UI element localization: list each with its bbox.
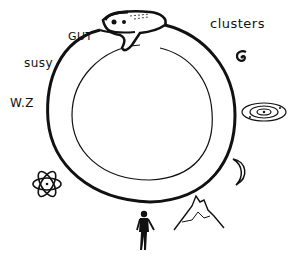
- label-susy: susy: [24, 56, 53, 70]
- label-clusters: clusters: [210, 16, 265, 31]
- moon-icon: [230, 157, 252, 187]
- spiral-galaxy-icon: [233, 48, 251, 66]
- atom-icon: [31, 168, 63, 200]
- uroboros-diagram: GUT susy W.Z clusters: [0, 0, 293, 259]
- label-gut: GUT: [68, 30, 93, 43]
- label-wz: W.Z: [10, 96, 34, 110]
- serpent-head-icon: [103, 11, 166, 50]
- human-figure-icon: [134, 210, 156, 254]
- mountain-icon: [172, 192, 228, 234]
- solar-system-icon: [240, 100, 288, 124]
